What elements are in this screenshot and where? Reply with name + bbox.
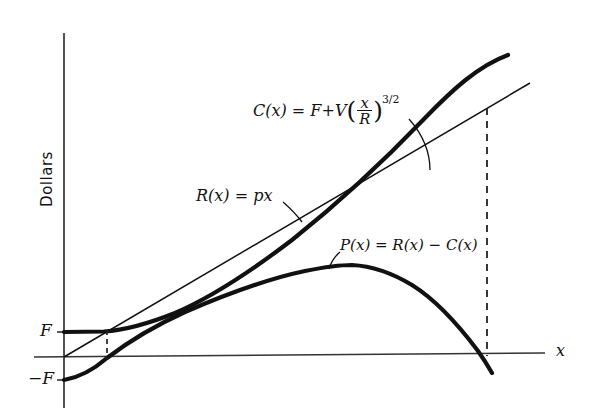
cost-arg: (x): [265, 101, 287, 120]
cost-plus: +: [321, 101, 334, 120]
chart-plot-area: [0, 0, 591, 418]
y-axis-label: Dollars: [38, 124, 56, 234]
tick-label-f: F: [40, 320, 52, 340]
cost-ratio-numerator: x: [357, 95, 372, 111]
leader-line-revenue: [283, 202, 302, 222]
cost-equals: =: [292, 101, 305, 120]
cost-paren-open: (: [346, 96, 356, 125]
cost-ratio: xR: [357, 95, 372, 127]
cost-fixed-term: F: [310, 101, 321, 120]
cost-exponent: 3/2: [382, 93, 400, 106]
break-even-chart: Dollars x F −F C(x) = F+V(xR)3/2 R(x) = …: [0, 0, 591, 418]
cost-variable-term: V: [335, 101, 347, 120]
annotation-profit-function: P(x) = R(x) − C(x): [340, 236, 478, 254]
cost-name: C: [253, 101, 265, 120]
x-axis-label: x: [556, 341, 565, 360]
annotation-revenue-function: R(x) = px: [196, 186, 272, 205]
series-profit-curve: [64, 265, 492, 380]
cost-ratio-denominator: R: [357, 111, 372, 126]
tick-label-negative-f: −F: [28, 368, 54, 388]
annotation-cost-function: C(x) = F+V(xR)3/2: [253, 96, 400, 128]
